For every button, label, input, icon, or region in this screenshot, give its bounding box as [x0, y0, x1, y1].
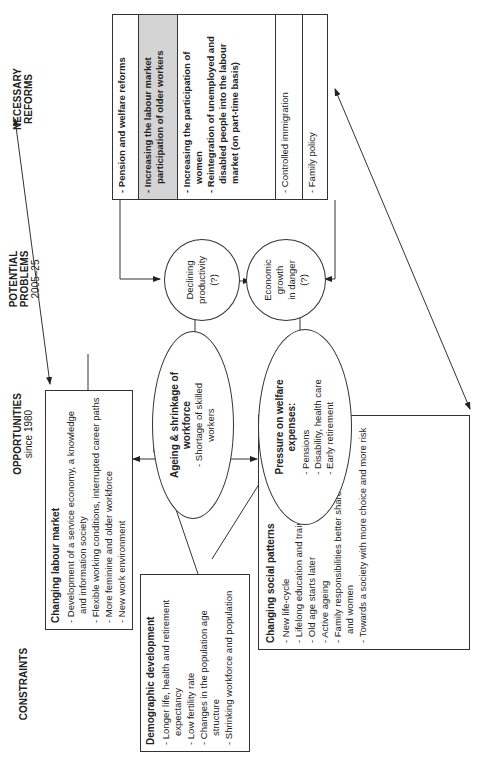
- labour-market-list: Development of a service economy, a know…: [65, 397, 128, 623]
- list-item: Shrinking workforce and population: [223, 581, 235, 745]
- list-item: New work environment: [116, 397, 128, 623]
- list-item: More feminine and older workforce: [103, 397, 115, 623]
- ageing-shrinkage-ellipse: Ageing & shrinkage of workforce - Shorta…: [152, 331, 234, 519]
- growth-line: (?): [298, 274, 310, 286]
- list-item: Early retirement: [324, 379, 336, 474]
- reform-row-women-reintegration: Increasing the participation of women Re…: [178, 15, 276, 199]
- reform-row-pension: Pension and welfare reforms: [113, 15, 139, 199]
- list-item: Controlled immigration: [279, 21, 291, 193]
- demographic-title: Demographic development: [145, 581, 157, 745]
- growth-line: growth: [274, 266, 286, 295]
- list-item: Disability, health care: [312, 379, 324, 474]
- list-item: Flexible working conditions, interrupted…: [90, 397, 102, 623]
- productivity-line: (?): [208, 274, 220, 286]
- list-item: Changes in the population age structure: [198, 581, 222, 745]
- growth-line: Economic: [262, 259, 274, 301]
- reform-row-older-workers: Increasing the labour market participati…: [139, 15, 178, 199]
- reform-row-immigration: Controlled immigration: [276, 15, 303, 199]
- list-item: Family policy: [306, 21, 318, 193]
- list-item: Increasing the labour market participati…: [142, 21, 166, 193]
- welfare-title: Pressure on welfare expenses:: [274, 377, 298, 477]
- list-item: Pensions: [300, 379, 312, 474]
- reform-list: Increasing the labour market participati…: [142, 21, 166, 193]
- reform-list: Pension and welfare reforms: [116, 21, 128, 193]
- economic-growth-circle: Economic growth in danger (?): [246, 239, 326, 321]
- demographic-list: Longer life, health and retirement expec…: [160, 581, 235, 745]
- ageing-item: - Shortage of skilled workers: [193, 370, 217, 480]
- reform-list: Family policy: [306, 21, 318, 193]
- declining-productivity-circle: Declining productivity (?): [164, 239, 240, 321]
- diagram-canvas: CONSTRAINTS OPPORTUNITIES since 1980 POT…: [0, 0, 485, 759]
- reform-row-family-policy: Family policy: [303, 15, 327, 199]
- reform-list: Increasing the participation of women Re…: [181, 21, 241, 193]
- reform-list: Controlled immigration: [279, 21, 291, 193]
- list-item: Towards a society with more choice and m…: [357, 422, 369, 643]
- ageing-title: Ageing & shrinkage of workforce: [169, 370, 193, 480]
- changing-labour-market-box: Changing labour market Development of a …: [45, 390, 133, 630]
- productivity-line: productivity: [196, 256, 208, 304]
- productivity-line: Declining: [184, 260, 196, 299]
- necessary-reforms-table: Pension and welfare reforms Increasing t…: [112, 14, 328, 200]
- list-item: Pension and welfare reforms: [116, 21, 128, 193]
- list-item: Low fertility rate: [185, 581, 197, 745]
- list-item: Longer life, health and retirement expec…: [160, 581, 184, 745]
- list-item: Development of a service economy, a know…: [65, 397, 89, 623]
- labour-market-title: Changing labour market: [50, 397, 62, 623]
- welfare-pressure-ellipse: Pressure on welfare expenses: Pensions D…: [258, 329, 352, 525]
- list-item: Increasing the participation of women: [181, 21, 205, 193]
- growth-line: in danger: [286, 260, 298, 300]
- demographic-development-box: Demographic development Longer life, hea…: [140, 574, 250, 752]
- list-item: Reintegration of unemployed and disabled…: [205, 21, 241, 193]
- ageing-item-text: Shortage of skilled workers: [193, 383, 216, 461]
- welfare-list: Pensions Disability, health care Early r…: [300, 379, 336, 474]
